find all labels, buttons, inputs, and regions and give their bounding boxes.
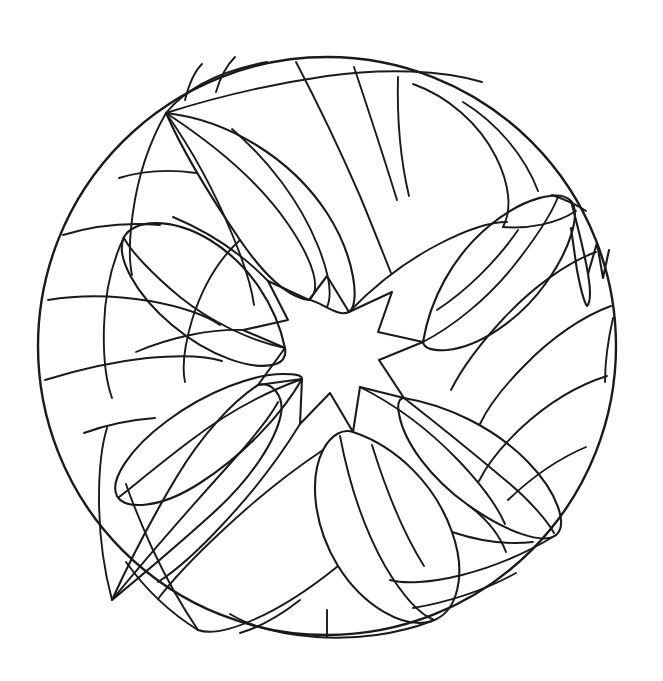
mandala-artwork: Mandala Coloring Page Circular black-and…: [0, 0, 663, 681]
page-background: [0, 0, 663, 681]
coloring-page-canvas: Mandala Coloring Page Circular black-and…: [0, 0, 663, 681]
